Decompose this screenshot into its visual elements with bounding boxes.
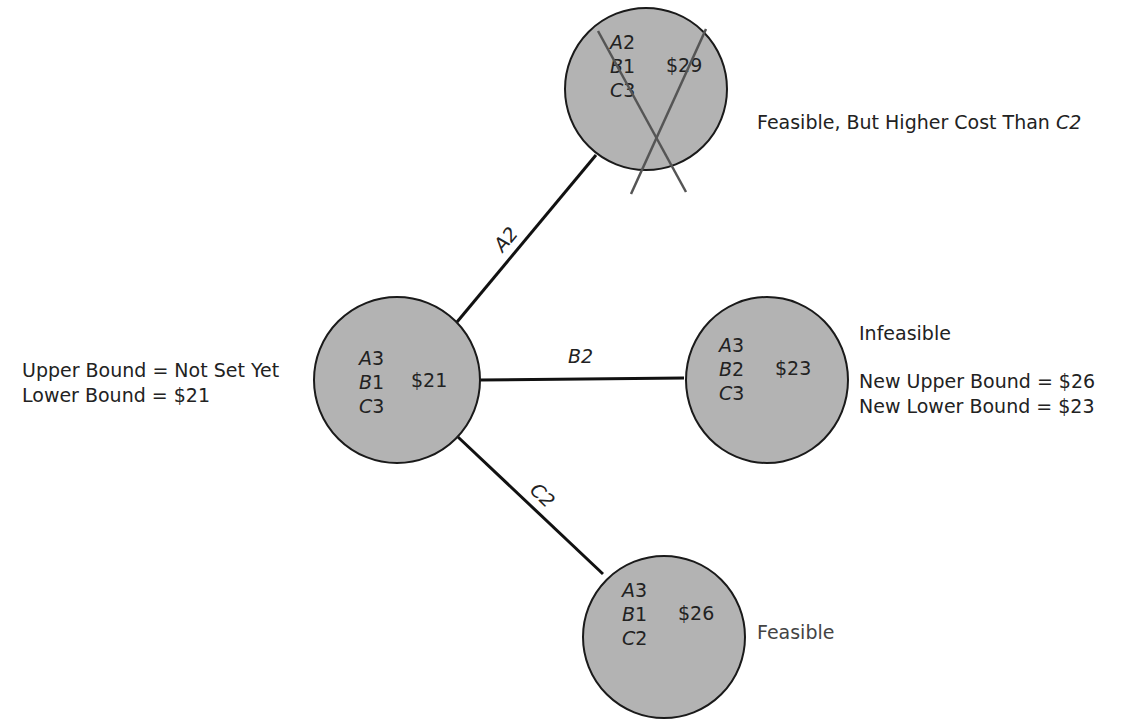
a2-note-text: Feasible, But Higher Cost Than (757, 111, 1056, 133)
var-b: B1 (622, 602, 647, 626)
var-a: A3 (719, 333, 744, 357)
node-cost: $23 (775, 357, 811, 379)
b2-bounds: New Upper Bound = $26 New Lower Bound = … (859, 369, 1095, 419)
b2-status: Infeasible (859, 321, 951, 346)
b2-lower-bound: New Lower Bound = $23 (859, 394, 1095, 419)
node-b2: A3 B2 C3 $23 (685, 296, 849, 464)
var-b: B2 (719, 357, 744, 381)
var-a: A3 (622, 578, 647, 602)
root-bounds: Upper Bound = Not Set Yet Lower Bound = … (22, 358, 279, 408)
node-cost: $26 (678, 602, 714, 624)
root-upper-bound: Upper Bound = Not Set Yet (22, 358, 279, 383)
a2-note-ref: C2 (1056, 111, 1081, 133)
var-c: C3 (719, 381, 744, 405)
var-c: C2 (622, 626, 647, 650)
a2-note: Feasible, But Higher Cost Than C2 (757, 110, 1081, 135)
b2-upper-bound: New Upper Bound = $26 (859, 369, 1095, 394)
node-c2: A3 B1 C2 $26 (582, 555, 746, 719)
root-lower-bound: Lower Bound = $21 (22, 383, 279, 408)
c2-status: Feasible (757, 620, 834, 645)
edge-label-b2: B2 (568, 345, 593, 367)
